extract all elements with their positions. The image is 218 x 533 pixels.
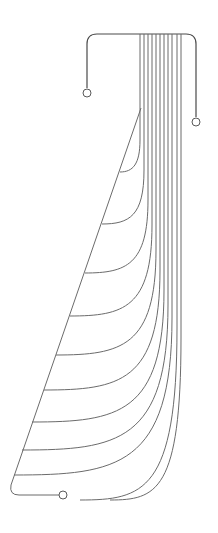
- wire-bundle-diagram: [0, 0, 218, 533]
- wire-6: [44, 34, 160, 390]
- wire-2: [102, 34, 144, 224]
- diagram-svg: [0, 0, 218, 533]
- top-frame-bar: [87, 34, 196, 117]
- wires: [14, 34, 181, 500]
- wire-5: [56, 34, 156, 355]
- bottom-terminal-icon: [59, 491, 67, 499]
- wire-1: [120, 34, 140, 172]
- right-terminal-icon: [192, 118, 200, 126]
- terminals: [59, 89, 200, 499]
- diagonal-edge: [11, 108, 141, 495]
- wire-11: [110, 34, 181, 500]
- left-terminal-icon: [83, 89, 91, 97]
